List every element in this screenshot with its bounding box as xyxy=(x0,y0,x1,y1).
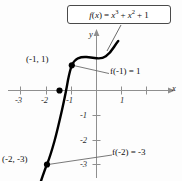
x-tick-label-1: 1 xyxy=(120,96,124,105)
y-tick-label--2: -2 xyxy=(80,136,87,145)
point-x-intercept xyxy=(56,87,62,93)
x-axis xyxy=(8,87,175,95)
equation-plus-1: + xyxy=(121,10,126,20)
equation-plus-2: + xyxy=(137,10,142,20)
point-minus-two-minus-three xyxy=(44,161,50,167)
x-tick-label--1: -1 xyxy=(66,96,73,105)
label-point-minus-two-minus-three: (-2, -3) xyxy=(2,155,28,164)
y-axis xyxy=(93,29,101,178)
y-tick-label--3: -3 xyxy=(80,160,87,169)
x-axis-label: x xyxy=(172,84,176,93)
f-minus-one-leader-line xyxy=(74,66,110,74)
y-axis-label: y xyxy=(89,30,93,39)
equation-close-paren: ) xyxy=(99,10,102,20)
equation-term2-exponent: 2 xyxy=(132,8,135,15)
graph-figure: f(x) = x3 + x2 + 1 x y -3 -2 -1 1 -1 -2 … xyxy=(0,0,182,181)
equation-equals: = xyxy=(104,10,109,20)
y-tick-label--1: -1 xyxy=(80,111,87,120)
point-minus-one-one xyxy=(69,62,75,68)
equation-callout: f(x) = x3 + x2 + 1 xyxy=(67,5,171,24)
equation-text: f(x) = x3 + x2 + 1 xyxy=(89,10,148,20)
equation-constant: 1 xyxy=(144,10,149,20)
label-point-minus-one-one: (-1, 1) xyxy=(26,55,49,64)
label-f-minus-one: f(-1) = 1 xyxy=(110,67,141,76)
label-f-minus-two: f(-2) = -3 xyxy=(112,148,146,157)
x-tick-label--3: -3 xyxy=(15,96,22,105)
equation-term1-exponent: 3 xyxy=(115,8,118,15)
x-tick-label--2: -2 xyxy=(41,96,48,105)
